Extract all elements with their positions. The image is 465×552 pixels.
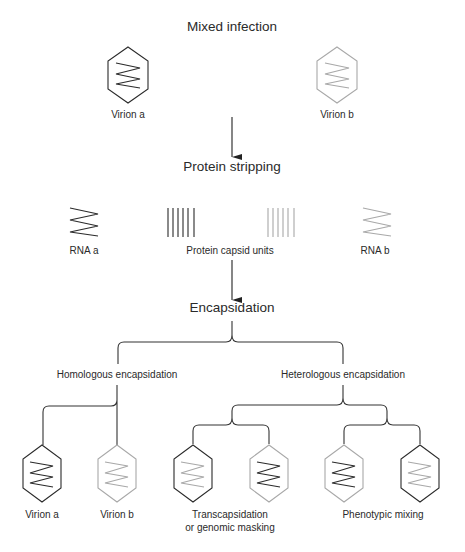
phenotypic-mixing-label: Phenotypic mixing [342,508,423,521]
rna-a-label: RNA a [70,244,99,257]
phenotypic-mixing-bracket [344,418,420,444]
transcapsidation-label: Transcapsidation or genomic masking [185,508,274,534]
phenotypic-mixing-virion-2-icon [401,445,439,502]
transcapsidation-label-line2: or genomic masking [185,521,274,534]
transcapsidation-label-line1: Transcapsidation [185,508,274,521]
capsid-units-light-icon [268,208,294,237]
virion-a-label: Virion a [111,108,145,121]
transcapsidation-virion-2-icon [250,445,288,502]
title-protein-stripping: Protein stripping [183,159,281,174]
heterologous-bracket [232,385,387,418]
outcome-virion-b-icon [98,445,136,502]
title-mixed-infection: Mixed infection [187,19,277,34]
outcome-virion-a-label: Virion a [25,508,59,521]
rna-b-label: RNA b [361,244,390,257]
transcapsidation-bracket [193,418,269,444]
outcome-virion-a-icon [23,445,61,502]
encapsidation-diagram [0,0,465,552]
rna-a-icon [70,208,98,236]
virion-b-top-icon [317,47,357,103]
capsid-units-dark-icon [168,208,194,237]
homologous-label: Homologous encapsidation [57,368,178,381]
encapsidation-bracket [118,321,343,364]
heterologous-label: Heterologous encapsidation [281,368,405,381]
transcapsidation-virion-1-icon [174,445,212,502]
virion-a-top-icon [108,47,148,103]
phenotypic-mixing-virion-1-icon [325,445,363,502]
capsid-units-label: Protein capsid units [186,244,273,257]
outcome-virion-b-label: Virion b [100,508,134,521]
homologous-bracket [43,385,117,445]
rna-b-icon [363,208,391,236]
virion-b-label: Virion b [320,108,354,121]
title-encapsidation: Encapsidation [190,300,275,315]
